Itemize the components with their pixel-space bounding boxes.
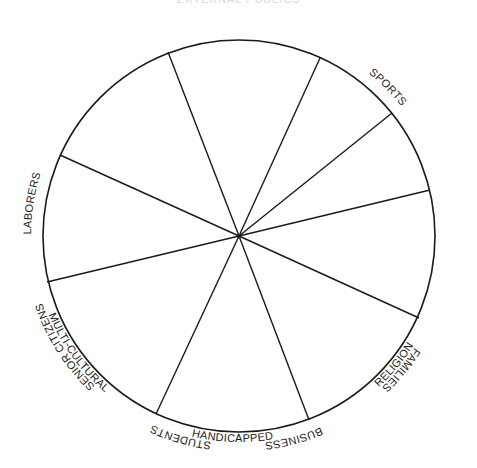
hub-dot: [237, 234, 241, 238]
publics-wheel: FAMILIES BUSINESS STUDENTS SENIOR CITIZE…: [0, 0, 477, 468]
spoke-line: [156, 236, 239, 414]
spoke-line: [47, 236, 239, 282]
segment-label-laborers: LABORERS: [21, 170, 43, 234]
spokes: [47, 52, 430, 420]
segment-label-handicapped: HANDICAPPED: [191, 427, 274, 444]
spoke-line: [239, 58, 320, 236]
segment-label-sports: SPORTS: [367, 66, 409, 108]
segment-labels: FAMILIES BUSINESS STUDENTS SENIOR CITIZE…: [21, 66, 423, 453]
